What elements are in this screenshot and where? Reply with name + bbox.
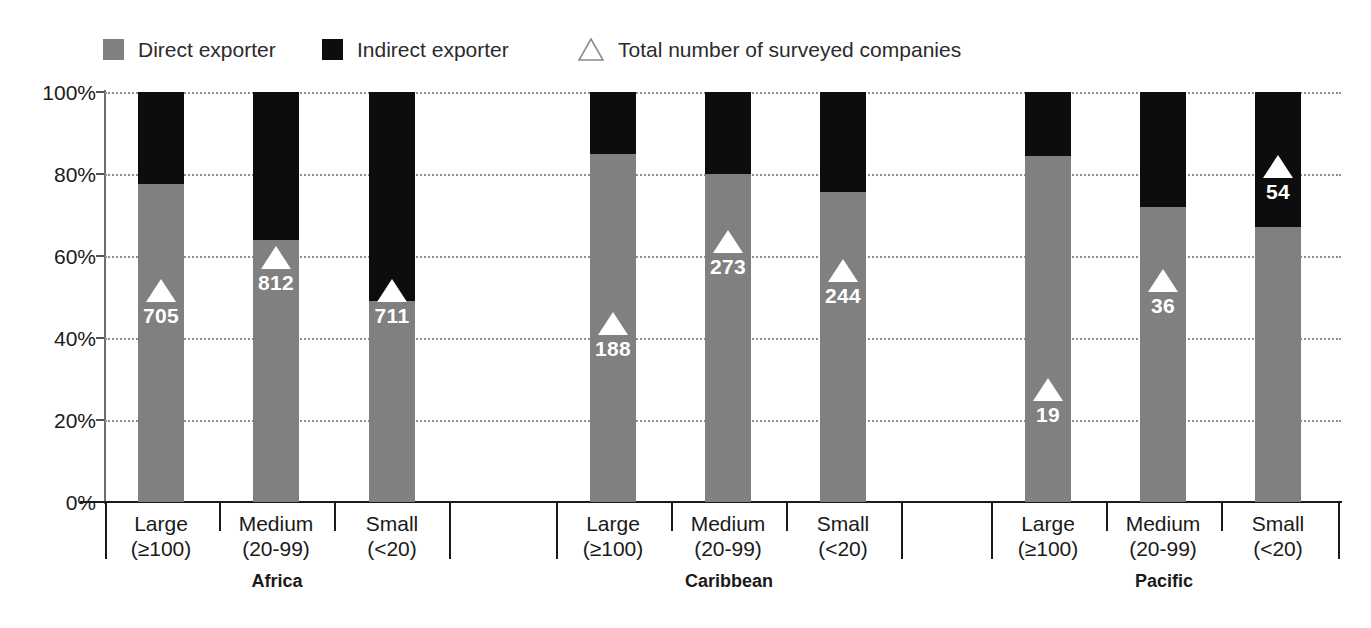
total-triangle-icon (377, 279, 407, 302)
bar-segment-direct (1255, 227, 1301, 502)
bar-segment-indirect (1140, 92, 1186, 207)
total-value: 273 (705, 255, 751, 278)
legend-item-direct-exporter: Direct exporter (103, 32, 276, 66)
bar-segment-direct (138, 184, 184, 502)
total-marker-caribbean-medium: 273 (705, 230, 751, 278)
bar-segment-direct (820, 192, 866, 502)
category-label-line1: Small (317, 511, 467, 536)
total-value: 812 (253, 271, 299, 294)
y-tick-label-80: 80% (10, 164, 96, 185)
legend-item-total-surveyed: Total number of surveyed companies (578, 32, 961, 66)
total-triangle-icon (598, 312, 628, 335)
legend-swatch-indirect-icon (322, 39, 343, 60)
legend-triangle-outline-icon (578, 38, 604, 61)
total-value: 19 (1025, 403, 1071, 426)
total-value: 36 (1140, 294, 1186, 317)
y-tick-label-40: 40% (10, 328, 96, 349)
total-triangle-icon (828, 259, 858, 282)
category-label-caribbean-small: Small (<20) (768, 511, 918, 561)
total-marker-pacific-medium: 36 (1140, 269, 1186, 317)
bar-caribbean-medium[interactable] (705, 92, 751, 502)
plot-area: 705 812 711 188 273 244 19 36 (105, 92, 1341, 502)
total-triangle-icon (146, 279, 176, 302)
bar-segment-indirect (705, 92, 751, 174)
bar-segment-direct (1140, 207, 1186, 502)
bar-segment-indirect (369, 92, 415, 301)
bar-africa-medium[interactable] (253, 92, 299, 502)
legend-label-direct: Direct exporter (138, 39, 276, 60)
total-value: 188 (590, 337, 636, 360)
legend-label-total: Total number of surveyed companies (618, 39, 961, 60)
total-value: 705 (138, 304, 184, 327)
total-marker-pacific-small: 54 (1255, 155, 1301, 203)
bar-segment-direct (1025, 156, 1071, 502)
group-label-caribbean: Caribbean (599, 571, 859, 592)
category-label-line2: (<20) (1203, 536, 1353, 561)
bar-segment-direct (369, 301, 415, 502)
bar-pacific-small[interactable] (1255, 92, 1301, 502)
total-marker-pacific-large: 19 (1025, 378, 1071, 426)
total-value: 54 (1255, 180, 1301, 203)
chart-legend: Direct exporter Indirect exporter Total … (0, 32, 1371, 66)
total-marker-africa-large: 705 (138, 279, 184, 327)
bar-caribbean-large[interactable] (590, 92, 636, 502)
category-label-line2: (<20) (317, 536, 467, 561)
y-tick-label-60: 60% (10, 246, 96, 267)
total-triangle-icon (1263, 155, 1293, 178)
total-marker-africa-small: 711 (369, 279, 415, 327)
total-marker-africa-medium: 812 (253, 246, 299, 294)
total-triangle-icon (1148, 269, 1178, 292)
total-marker-caribbean-large: 188 (590, 312, 636, 360)
total-marker-caribbean-small: 244 (820, 259, 866, 307)
bar-segment-indirect (253, 92, 299, 240)
bar-segment-direct (705, 174, 751, 502)
total-value: 244 (820, 284, 866, 307)
y-tick-label-20: 20% (10, 410, 96, 431)
legend-swatch-direct-icon (103, 39, 124, 60)
bar-segment-indirect (1025, 92, 1071, 156)
bar-pacific-large[interactable] (1025, 92, 1071, 502)
total-triangle-icon (261, 246, 291, 269)
total-triangle-icon (713, 230, 743, 253)
bar-segment-indirect (138, 92, 184, 184)
legend-item-indirect-exporter: Indirect exporter (322, 32, 509, 66)
bar-segment-indirect (820, 92, 866, 192)
bar-segment-indirect (590, 92, 636, 154)
total-value: 711 (369, 304, 415, 327)
legend-label-indirect: Indirect exporter (357, 39, 509, 60)
category-label-africa-small: Small (<20) (317, 511, 467, 561)
chart-container: Direct exporter Indirect exporter Total … (0, 0, 1371, 628)
total-triangle-icon (1033, 378, 1063, 401)
category-axis: Large (≥100) Medium (20-99) Small (<20) … (0, 503, 1371, 628)
category-label-line1: Small (1203, 511, 1353, 536)
category-label-line2: (<20) (768, 536, 918, 561)
group-label-africa: Africa (147, 571, 407, 592)
y-tick-label-100: 100% (10, 82, 96, 103)
category-label-pacific-small: Small (<20) (1203, 511, 1353, 561)
category-label-line1: Small (768, 511, 918, 536)
group-label-pacific: Pacific (1034, 571, 1294, 592)
